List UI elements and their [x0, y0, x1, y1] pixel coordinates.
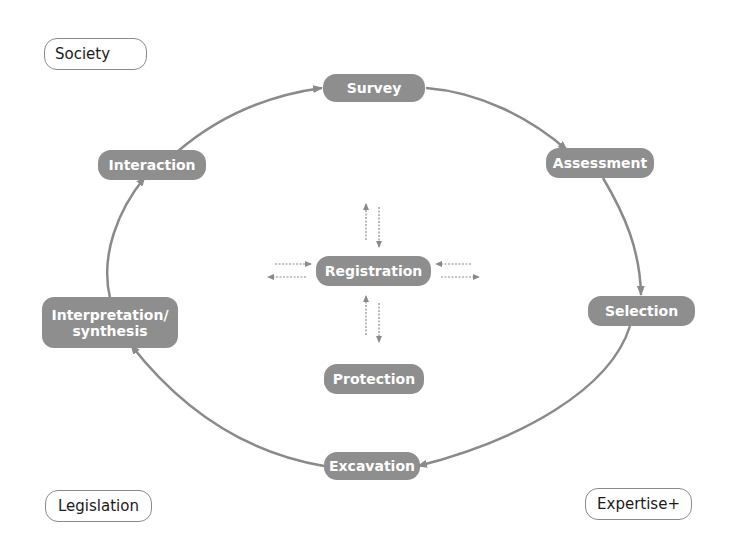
selection-label: Selection [605, 303, 678, 319]
legislation-label: Legislation [58, 498, 139, 514]
protection-label: Protection [333, 371, 415, 387]
cycle-node-interaction: Interaction [98, 150, 206, 180]
cycle-node-selection: Selection [588, 296, 695, 326]
interpretation-label-line1: Interpretation/ [51, 307, 168, 323]
arrow-excavation-to-interpretation [131, 345, 324, 466]
arrow-survey-to-assessment [426, 88, 567, 150]
context-node-expertise: Expertise+ [585, 488, 692, 520]
registration-label: Registration [325, 263, 423, 279]
arrow-interpretation-to-interaction [107, 177, 145, 298]
excavation-label: Excavation [329, 458, 415, 474]
cycle-node-interpretation-synthesis: Interpretation/ synthesis [42, 297, 178, 348]
assessment-label: Assessment [553, 155, 647, 171]
cycle-node-assessment: Assessment [546, 148, 654, 178]
center-node-protection: Protection [324, 364, 424, 394]
arrow-interaction-to-survey [177, 88, 322, 152]
arrow-assessment-to-selection [603, 178, 641, 295]
cycle-node-excavation: Excavation [324, 452, 420, 480]
interaction-label: Interaction [108, 157, 195, 173]
cycle-node-survey: Survey [323, 74, 425, 102]
arrow-selection-to-excavation [418, 326, 630, 466]
survey-label: Survey [347, 80, 402, 96]
context-node-legislation: Legislation [45, 490, 152, 522]
center-node-registration: Registration [316, 256, 431, 286]
expertise-label: Expertise+ [597, 496, 680, 512]
interpretation-label-line2: synthesis [72, 323, 147, 339]
society-label: Society [55, 46, 110, 62]
context-node-society: Society [44, 38, 147, 70]
